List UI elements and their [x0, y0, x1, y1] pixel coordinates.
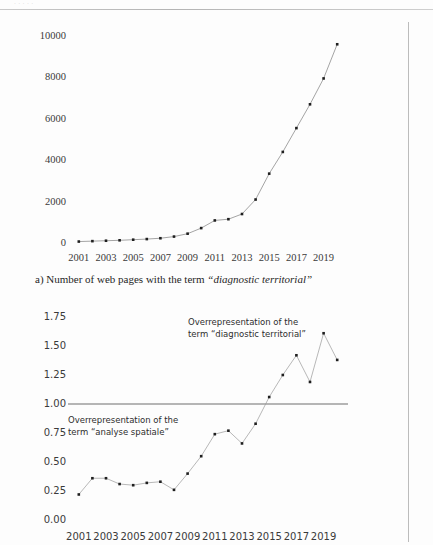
header-rule [0, 9, 433, 10]
data-point-marker [214, 219, 217, 222]
data-point-marker [254, 198, 257, 201]
data-point-marker [336, 43, 339, 46]
data-point-marker [132, 484, 135, 487]
data-point-marker [336, 359, 339, 362]
data-point-marker [186, 232, 189, 235]
annotation-analyse-spatiale: Overrepresentation of the term “analyse … [68, 415, 233, 438]
data-point-marker [132, 238, 135, 241]
data-point-marker [146, 482, 149, 485]
figure-caption-a: a) Number of web pages with the term “di… [35, 272, 405, 287]
data-point-marker [227, 218, 230, 221]
data-point-marker [254, 422, 257, 425]
data-point-marker [105, 477, 108, 480]
annotation-diagnostic-territorial: Overrepresentation of the term “diagnost… [188, 317, 353, 340]
data-point-marker [78, 240, 81, 243]
series-line [79, 333, 337, 494]
data-point-marker [91, 240, 94, 243]
data-point-marker [200, 455, 203, 458]
data-point-marker [78, 493, 81, 496]
data-point-marker [91, 477, 94, 480]
data-point-marker [309, 103, 312, 106]
data-point-marker [241, 213, 244, 216]
data-point-marker [186, 472, 189, 475]
chart-web-pages-count: 0200040006000800010000200120032005200720… [0, 22, 400, 267]
data-point-marker [322, 77, 325, 80]
chart-overrepresentation-ratio: 0.000.250.500.751.001.251.501.7520012003… [0, 303, 400, 545]
data-point-marker [282, 151, 285, 154]
chart-series-layer [0, 22, 400, 267]
caption-a-term: “diagnostic territorial” [207, 273, 312, 285]
data-point-marker [309, 381, 312, 384]
data-point-marker [173, 489, 176, 492]
data-point-marker [200, 227, 203, 230]
header-text-fragment: · · · · · [0, 0, 433, 7]
data-point-marker [159, 480, 162, 483]
caption-a-prefix: a) Number of web pages with the term [35, 273, 207, 285]
data-point-marker [282, 374, 285, 377]
data-point-marker [118, 239, 121, 242]
data-point-marker [241, 442, 244, 445]
data-point-marker [268, 172, 271, 175]
data-point-marker [295, 354, 298, 357]
data-point-marker [118, 483, 121, 486]
data-point-marker [105, 239, 108, 242]
series-line [79, 44, 337, 241]
page-edge-rule [408, 22, 409, 542]
data-point-marker [173, 235, 176, 238]
data-point-marker [295, 127, 298, 130]
data-point-marker [268, 396, 271, 399]
data-point-marker [146, 238, 149, 241]
data-point-marker [159, 237, 162, 240]
